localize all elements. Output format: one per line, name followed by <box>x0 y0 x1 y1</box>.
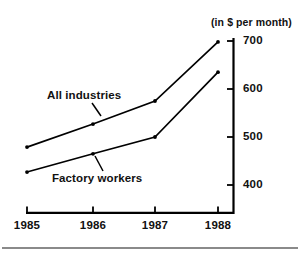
data-point <box>216 70 220 74</box>
series-markers-factory-workers <box>25 70 220 174</box>
y-tick-label-500: 500 <box>243 130 263 142</box>
data-point <box>153 99 157 103</box>
leader-line-all-industries <box>92 103 101 116</box>
data-point <box>153 135 157 139</box>
y-tick-label-600: 600 <box>243 82 263 94</box>
x-tick-label-1986: 1986 <box>68 219 118 231</box>
data-point <box>91 122 95 126</box>
series-label-all-industries: All industries <box>47 89 121 101</box>
series-label-factory-workers: Factory workers <box>52 172 142 184</box>
data-point <box>216 40 220 44</box>
y-tick-label-700: 700 <box>243 34 263 46</box>
data-point <box>91 152 95 156</box>
y-tick-label-400: 400 <box>243 178 263 190</box>
chart-figure: (in $ per month) 700 600 500 400 1985 19… <box>0 0 300 256</box>
series-line-factory-workers <box>27 72 218 172</box>
data-point <box>25 170 29 174</box>
data-point <box>25 145 29 149</box>
x-tick-label-1988: 1988 <box>193 219 243 231</box>
x-tick-label-1987: 1987 <box>130 219 180 231</box>
leader-line-factory-workers <box>95 156 103 171</box>
page-divider-rule <box>2 247 298 249</box>
x-tick-label-1985: 1985 <box>2 219 52 231</box>
